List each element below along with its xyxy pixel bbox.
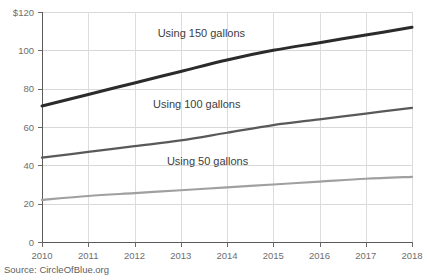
water-price-line-chart: 020406080100$120 20102011201220132014201… [0,0,427,280]
y-tick-label: 40 [23,160,34,171]
series-annotations: Using 150 gallonsUsing 100 gallonsUsing … [153,27,249,167]
y-tick-label: 60 [23,122,34,133]
x-tick-label: 2017 [355,250,376,261]
source-note: Source: CircleOfBlue.org [4,264,109,275]
x-tick-label: 2015 [263,250,284,261]
y-tick-label: 0 [29,237,34,248]
x-tick-label: 2011 [78,250,98,261]
series-annotation-label: Using 100 gallons [153,98,241,110]
x-tick-label: 2013 [170,250,191,261]
x-axis-tick-labels: 201020112012201320142015201620172018 [31,250,422,261]
y-axis-tick-labels: 020406080100$120 [13,7,34,248]
series-annotation-label: Using 150 gallons [158,27,246,39]
x-tick-label: 2010 [31,250,52,261]
x-tick-label: 2014 [216,250,237,261]
y-tick-label: 20 [23,198,34,209]
x-tick-label: 2018 [401,250,422,261]
x-tick-label: 2012 [124,250,145,261]
tick-marks [38,13,413,248]
y-tick-label: $120 [13,7,34,18]
y-tick-label: 80 [23,83,34,94]
x-tick-label: 2016 [309,250,330,261]
chart-plot-area: 020406080100$120 20102011201220132014201… [0,0,427,280]
series-annotation-label: Using 50 gallons [167,155,249,167]
y-tick-label: 100 [18,45,34,56]
